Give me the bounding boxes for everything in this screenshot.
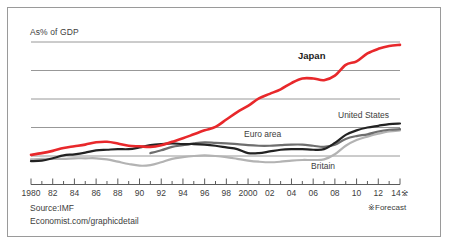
x-tick-label: 96 [200,188,209,198]
x-tick-label: 2000 [239,188,258,198]
series-label-britain: Britain [311,161,335,171]
x-tick-label: 86 [91,188,100,198]
series-label-euro-area: Euro area [244,129,281,139]
chart-container: As% of GDP Japan United States Euro area… [0,0,449,245]
x-tick-label: 10 [352,188,361,198]
series-label-united-states: United States [338,110,389,120]
x-tick-label: 04 [287,188,296,198]
data-series-lines [31,45,400,166]
series-label-japan: Japan [298,50,325,61]
x-tick-label: 98 [222,188,231,198]
x-axis-ticks [31,179,400,185]
x-tick-label: 92 [157,188,166,198]
x-tick-label: 1980 [22,188,41,198]
x-tick-label: 06 [308,188,317,198]
x-tick-label: 02 [265,188,274,198]
source-credit: Source:IMF [30,203,74,213]
x-tick-label: 14※ [391,188,408,198]
x-tick-label: 90 [135,188,144,198]
website-credit: Economist.com/graphicdetail [30,216,139,226]
forecast-footnote: ※Forecast [368,203,406,212]
x-tick-label: 82 [48,188,57,198]
x-tick-label: 94 [178,188,187,198]
x-tick-label: 88 [113,188,122,198]
x-tick-label: 08 [330,188,339,198]
x-tick-label: 84 [70,188,79,198]
x-tick-label: 12 [374,188,383,198]
y-axis-label: As% of GDP [30,27,79,37]
